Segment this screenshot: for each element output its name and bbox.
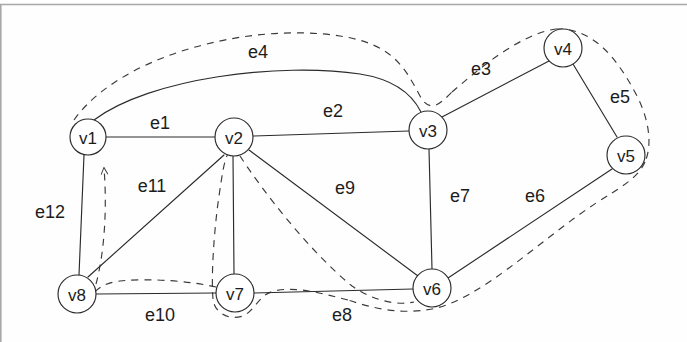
node-v8-label: v8 <box>68 286 86 305</box>
edge-label-e11: e11 <box>138 176 167 196</box>
edge-label-e4: e4 <box>248 42 268 62</box>
edge-label-e1: e1 <box>150 113 170 133</box>
tour-segment-v3-v4 <box>452 29 556 92</box>
edge-label-e9: e9 <box>335 178 355 198</box>
edge-e8 <box>254 289 413 293</box>
tour-segment-v8-v1-arrow <box>96 168 105 284</box>
edge-e12 <box>79 155 84 275</box>
edge-label-e5: e5 <box>610 87 630 107</box>
edge-e2 <box>253 131 409 136</box>
edge-label-e8: e8 <box>332 305 352 325</box>
edge-label-e3: e3 <box>471 59 491 79</box>
tour-segment-v2-v6-diagonal <box>240 156 414 303</box>
graph-canvas: v1 v2 v3 v4 v5 v6 <box>0 0 687 342</box>
edge-e11 <box>88 155 224 277</box>
dashed-tour-path <box>74 29 649 317</box>
node-v4-label: v4 <box>554 40 572 59</box>
node-v8[interactable]: v8 <box>58 275 96 313</box>
edge-e7 <box>429 149 432 269</box>
graph-nodes: v1 v2 v3 v4 v5 v6 <box>58 29 645 313</box>
edge-v2-v7 <box>233 156 234 274</box>
edge-label-e12: e12 <box>35 202 65 222</box>
node-v1[interactable]: v1 <box>70 119 106 155</box>
node-v3[interactable]: v3 <box>409 111 447 149</box>
node-v7[interactable]: v7 <box>216 274 254 312</box>
node-v5-label: v5 <box>617 147 635 166</box>
edge-e10 <box>96 293 216 294</box>
node-v6[interactable]: v6 <box>413 269 451 307</box>
edge-label-e7: e7 <box>450 186 470 206</box>
node-v2-label: v2 <box>225 129 243 148</box>
edge-e3 <box>442 61 549 117</box>
node-v5[interactable]: v5 <box>607 136 645 174</box>
edge-label-e6: e6 <box>525 186 545 206</box>
node-v6-label: v6 <box>423 280 441 299</box>
tour-segment-v5-v6 <box>348 162 645 311</box>
edge-e9 <box>249 150 418 276</box>
node-v1-label: v1 <box>79 129 97 148</box>
node-v7-label: v7 <box>226 285 244 304</box>
edge-label-e10: e10 <box>145 305 175 325</box>
node-v3-label: v3 <box>419 122 437 141</box>
graph-figure: v1 v2 v3 v4 v5 v6 <box>0 0 687 342</box>
edge-labels: e1 e2 e3 e4 e5 e6 e7 e8 e9 e10 e11 e12 <box>35 42 630 325</box>
edge-label-e2: e2 <box>323 101 343 121</box>
node-v2[interactable]: v2 <box>215 118 253 156</box>
node-v4[interactable]: v4 <box>544 29 582 67</box>
edge-e4 <box>94 70 421 120</box>
